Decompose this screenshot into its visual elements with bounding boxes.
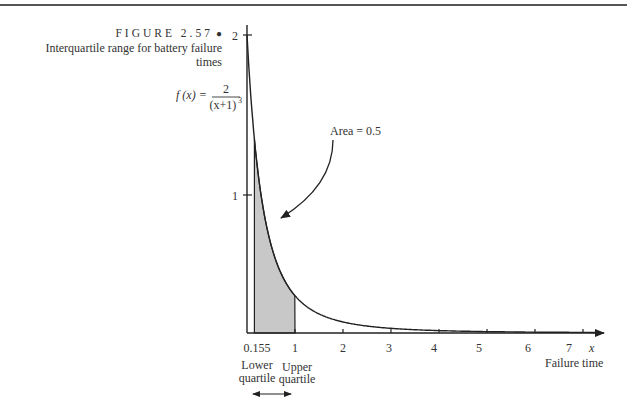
x-tick-label-3: 3 — [386, 341, 392, 355]
x-tick-label-5: 5 — [476, 341, 482, 355]
lower-quartile-label-1: Lower — [241, 358, 272, 372]
x-tick-label-7: 7 — [566, 341, 572, 355]
x-tick-label-6: 6 — [525, 341, 531, 355]
x-tick-label-4: 4 — [431, 341, 437, 355]
area-annotation: Area = 0.5 — [330, 124, 381, 138]
x-tick-label-0155: 0.155 — [244, 341, 271, 355]
area-pointer-arrow — [281, 140, 333, 218]
upper-quartile-label-2: quartile — [279, 372, 316, 386]
function-exponent: 3 — [238, 96, 242, 105]
shaded-iqr-area — [254, 140, 295, 333]
density-curve — [247, 35, 597, 333]
x-axis-title: Failure time — [545, 356, 603, 370]
y-tick-label-2: 2 — [232, 29, 238, 43]
function-numerator: 2 — [223, 82, 229, 96]
x-tick-label-1: 1 — [292, 341, 298, 355]
chart: 2 1 0.155 1 2 3 4 5 6 7 x Failure time L… — [0, 0, 627, 397]
function-denominator: (x+1) — [210, 98, 237, 112]
function-lhs: f (x) = — [176, 88, 207, 102]
y-tick-label-1: 1 — [232, 189, 238, 203]
lower-quartile-label-2: quartile — [239, 371, 276, 385]
x-variable-label: x — [588, 341, 595, 355]
x-tick-label-2: 2 — [340, 341, 346, 355]
